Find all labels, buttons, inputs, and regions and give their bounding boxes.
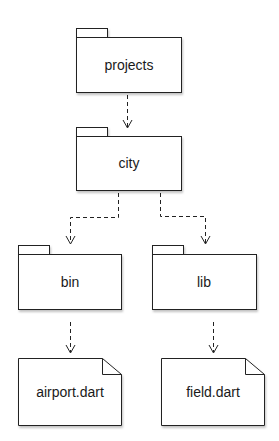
file-field[interactable]: field.dart (162, 359, 265, 426)
edge-bin-airport (66, 322, 75, 353)
diagram-canvas: projects city bin lib (0, 0, 279, 441)
file-label: field.dart (186, 384, 240, 400)
folder-label: projects (104, 57, 153, 73)
edge-city-lib (161, 193, 211, 244)
folder-bin[interactable]: bin (19, 246, 122, 310)
folder-projects[interactable]: projects (77, 29, 182, 93)
file-label: airport.dart (36, 384, 104, 400)
folder-label: lib (197, 274, 211, 290)
folder-lib[interactable]: lib (153, 246, 257, 310)
edge-projects-city (123, 95, 132, 128)
folder-label: bin (61, 274, 80, 290)
edge-city-bin (66, 193, 119, 244)
folder-city[interactable]: city (77, 128, 182, 191)
folder-label: city (119, 155, 140, 171)
file-airport[interactable]: airport.dart (19, 359, 122, 426)
edge-lib-field (209, 322, 218, 353)
